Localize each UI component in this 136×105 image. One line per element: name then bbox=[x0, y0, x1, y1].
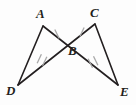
segment-AD bbox=[18, 26, 43, 85]
geometry-figure: A C B D E bbox=[0, 0, 136, 105]
vertex-label-B: B bbox=[68, 44, 77, 57]
vertex-label-D: D bbox=[6, 84, 15, 97]
vertex-label-A: A bbox=[36, 7, 45, 20]
vertex-label-C: C bbox=[90, 6, 99, 19]
vertex-label-E: E bbox=[120, 85, 129, 98]
